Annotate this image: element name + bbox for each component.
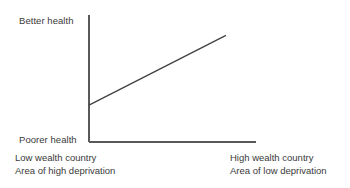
y-axis-top-label: Better health (19, 15, 74, 27)
x-axis-left-caption-line1: Low wealth country (15, 152, 115, 165)
trend-line (89, 35, 226, 105)
x-axis-right-caption-line1: High wealth country (230, 152, 327, 165)
x-axis-right-caption: High wealth country Area of low deprivat… (230, 152, 327, 177)
x-axis-left-caption-line2: Area of high deprivation (15, 165, 115, 178)
x-axis-left-caption: Low wealth country Area of high deprivat… (15, 152, 115, 177)
y-axis-bottom-label: Poorer health (19, 134, 77, 146)
chart-container: Better health Poorer health Low wealth c… (0, 0, 350, 188)
x-axis-right-caption-line2: Area of low deprivation (230, 165, 327, 178)
